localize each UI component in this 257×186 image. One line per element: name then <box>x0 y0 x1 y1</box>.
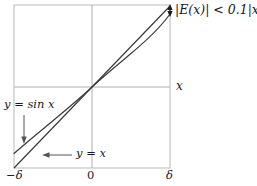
error-bound-label: |E(x)| < 0.1|x| <box>175 4 257 17</box>
sin-label-arrow <box>21 115 26 144</box>
x-axis-label: x <box>176 80 183 92</box>
error-gap-marker <box>167 4 172 17</box>
linear-label-arrow <box>42 152 72 157</box>
tick-label-delta: δ <box>166 170 173 182</box>
sin-curve-label: y = sin x <box>4 99 55 111</box>
tick-label-negative-delta: −δ <box>6 170 23 182</box>
figure-container: |E(x)| < 0.1|x| x y = sin x y = x −δ 0 δ <box>0 0 257 186</box>
linear-curve-label: y = x <box>76 148 106 160</box>
plot-svg <box>0 0 257 186</box>
tick-label-zero: 0 <box>87 170 94 182</box>
